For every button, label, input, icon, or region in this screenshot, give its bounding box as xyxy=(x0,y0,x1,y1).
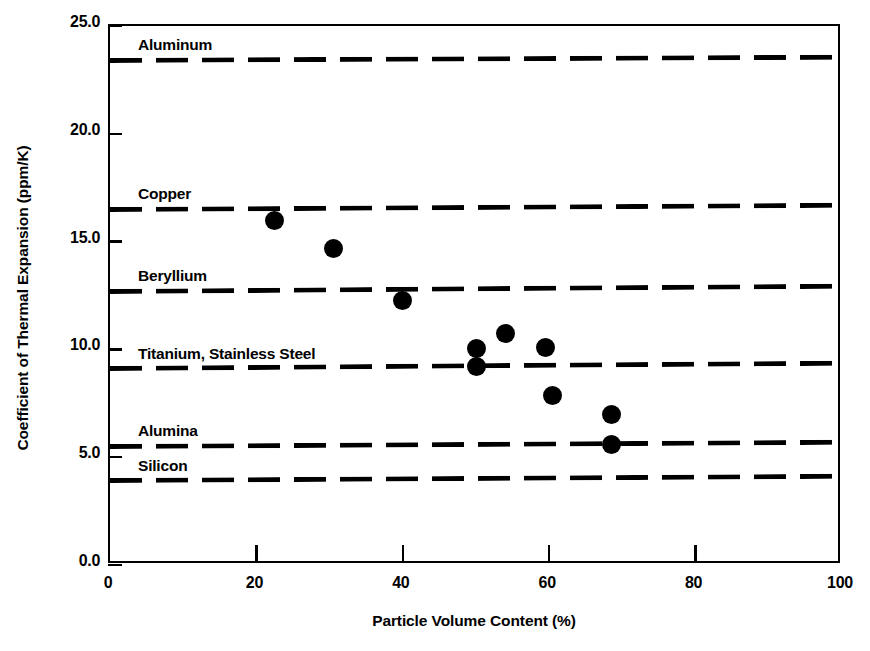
reference-line-dashes xyxy=(110,283,838,293)
y-axis-tick xyxy=(108,564,122,567)
reference-line-dashes xyxy=(110,440,838,449)
x-axis-tick xyxy=(548,545,551,563)
x-tick-label: 0 xyxy=(78,574,138,592)
reference-line-dashes xyxy=(110,202,838,211)
y-tick-label: 5.0 xyxy=(38,444,100,462)
reference-line-label: Beryllium xyxy=(138,267,207,285)
x-axis-tick xyxy=(694,545,697,563)
data-point xyxy=(265,211,284,230)
y-tick-label: 10.0 xyxy=(38,336,100,354)
chart-figure: Coefficient of Thermal Expansion (ppm/K)… xyxy=(0,0,870,651)
reference-line-label: Titanium, Stainless Steel xyxy=(138,345,315,363)
reference-line xyxy=(110,474,838,483)
plot-area: AluminumCopperBerylliumTitanium, Stainle… xyxy=(108,24,840,563)
y-axis-tick xyxy=(108,456,122,459)
y-tick-label: 15.0 xyxy=(38,229,100,247)
y-tick-label: 0.0 xyxy=(38,552,100,570)
x-tick-label: 80 xyxy=(664,574,724,592)
x-tick-label: 40 xyxy=(371,574,431,592)
reference-line xyxy=(110,283,838,293)
reference-line-dashes xyxy=(110,55,838,63)
reference-line xyxy=(110,440,838,449)
reference-line-label: Aluminum xyxy=(138,36,212,54)
x-tick-label: 100 xyxy=(810,574,870,592)
data-point xyxy=(467,357,486,376)
x-axis-tick xyxy=(402,545,405,563)
y-tick-label: 25.0 xyxy=(38,13,100,31)
reference-line-dashes xyxy=(110,474,838,483)
reference-line-label: Alumina xyxy=(138,422,198,440)
x-tick-label: 60 xyxy=(517,574,577,592)
x-axis-title: Particle Volume Content (%) xyxy=(108,612,840,630)
data-point xyxy=(324,239,343,258)
y-axis-tick xyxy=(108,240,122,243)
x-axis-tick xyxy=(255,545,258,563)
y-axis-tick xyxy=(108,25,122,28)
reference-line-label: Silicon xyxy=(138,457,187,475)
x-tick-label: 20 xyxy=(224,574,284,592)
data-point xyxy=(602,435,621,454)
y-axis-tick-labels: 0.05.010.015.020.025.0 xyxy=(32,0,100,651)
data-point xyxy=(602,405,621,424)
data-point xyxy=(393,291,412,310)
data-point xyxy=(543,386,562,405)
data-point xyxy=(467,339,486,358)
reference-line xyxy=(110,202,838,211)
y-axis-tick xyxy=(108,348,122,351)
reference-line xyxy=(110,55,838,63)
reference-line-label: Copper xyxy=(138,185,191,203)
data-point xyxy=(536,338,555,357)
y-axis-tick xyxy=(108,133,122,136)
data-point xyxy=(496,324,515,343)
y-tick-label: 20.0 xyxy=(38,121,100,139)
